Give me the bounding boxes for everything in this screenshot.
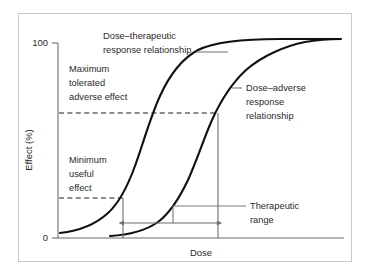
minimum-useful-label-line1: Minimum [69, 155, 107, 165]
dose-adverse-response-label: Dose–adverse response relationship [246, 83, 306, 121]
dose-adverse-response-label-line1: Dose–adverse [246, 83, 306, 93]
minimum-useful-effect-label: Minimum useful effect [69, 155, 107, 193]
maximum-tolerated-label-line2: tolerated [69, 78, 105, 88]
minimum-useful-label-line2: useful [69, 169, 94, 179]
maximum-tolerated-label-line1: Maximum [69, 64, 110, 74]
dose-adverse-response-label-line3: relationship [246, 111, 294, 121]
x-axis-title: Dose [190, 247, 212, 258]
minimum-useful-label-line3: effect [69, 183, 92, 193]
therapeutic-range-leader-line [173, 206, 246, 223]
y-tick-label-0: 0 [43, 232, 48, 243]
figure-root: 100 0 Effect (%) Dose Dose [0, 0, 369, 275]
dose-response-chart: 100 0 Effect (%) Dose Dose [0, 0, 369, 275]
therapeutic-range-label-line2: range [250, 215, 274, 225]
dose-therapeutic-response-label: Dose–therapeutic response relationship [103, 31, 191, 55]
y-tick-label-100: 100 [32, 37, 48, 48]
dose-adverse-response-label-line2: response [246, 97, 284, 107]
therapeutic-range-label-line1: Therapeutic [250, 201, 299, 211]
dose-therapeutic-response-label-line2: response relationship [103, 45, 191, 55]
maximum-tolerated-label-line3: adverse effect [69, 92, 128, 102]
therapeutic-range-label: Therapeutic range [250, 201, 299, 225]
dose-therapeutic-response-label-line1: Dose–therapeutic [103, 31, 176, 41]
maximum-tolerated-adverse-effect-label: Maximum tolerated adverse effect [69, 64, 128, 102]
y-axis-title: Effect (%) [23, 129, 34, 171]
